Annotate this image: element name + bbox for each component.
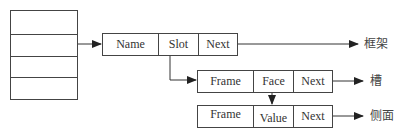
slot-record-frame-cell: Frame	[198, 71, 253, 92]
facet-record: Frame Value Next	[197, 105, 333, 128]
stack-row-3	[11, 56, 77, 77]
diagram-canvas: Name Slot Next 框架 Frame Face Next 槽 Fram…	[0, 0, 403, 137]
frame-record-name-cell: Name	[103, 34, 158, 55]
frame-stack	[10, 10, 78, 100]
slot-record-face-cell: Face	[253, 71, 293, 92]
slot-record: Frame Face Next	[197, 70, 333, 93]
slot-record-next-cell: Next	[293, 71, 332, 92]
frame-label: 框架	[364, 37, 388, 51]
frame-record-next-cell: Next	[198, 34, 237, 55]
stack-row-1	[11, 11, 77, 34]
stack-row-2	[11, 34, 77, 56]
frame-record: Name Slot Next	[102, 33, 238, 56]
facet-label: 侧面	[370, 109, 394, 123]
facet-record-value-cell: Value	[253, 106, 293, 127]
facet-record-frame-cell: Frame	[198, 106, 253, 127]
stack-row-4	[11, 77, 77, 100]
frame-record-slot-cell: Slot	[158, 34, 198, 55]
facet-record-next-cell: Next	[293, 106, 332, 127]
slot-label: 槽	[370, 74, 382, 88]
